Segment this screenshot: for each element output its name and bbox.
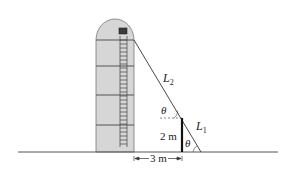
label-post-height: 2 m	[160, 130, 177, 142]
label-distance: 3 m	[150, 152, 167, 164]
silo-window	[119, 28, 127, 34]
angle-arc-bottom	[193, 146, 197, 152]
label-L1: L1	[195, 119, 207, 135]
label-L2: L2	[162, 71, 174, 87]
label-theta-bottom: θ	[185, 137, 191, 149]
silo-cable-diagram: L2 L1 θ θ 2 m 3 m	[0, 0, 296, 174]
label-theta-top: θ	[161, 104, 167, 116]
silo	[96, 19, 134, 152]
